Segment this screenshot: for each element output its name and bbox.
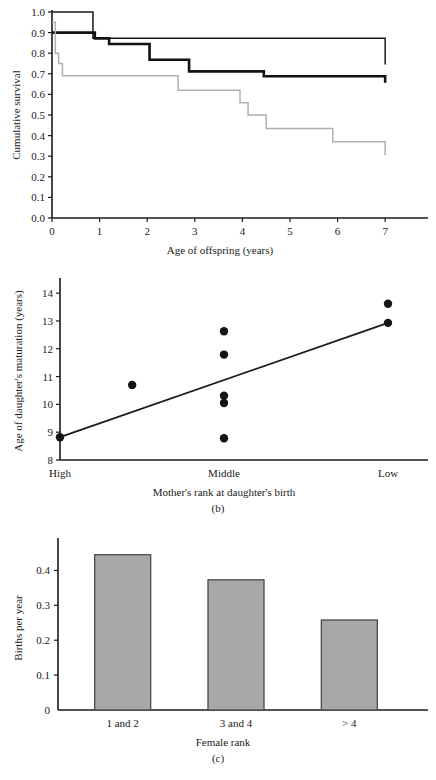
bar-0 bbox=[95, 555, 151, 710]
y-tick-label: 10 bbox=[42, 398, 54, 410]
y-tick-label: 0.2 bbox=[31, 171, 45, 183]
y-tick-label: 0.6 bbox=[31, 88, 45, 100]
y-tick-label: 0.1 bbox=[36, 669, 50, 681]
x-axis-title: Age of offspring (years) bbox=[167, 244, 274, 257]
y-tick-label: 9 bbox=[48, 426, 54, 438]
scatter-point bbox=[220, 399, 228, 407]
y-tick-label: 0.9 bbox=[31, 27, 45, 39]
x-tick-label: 7 bbox=[382, 225, 388, 237]
x-tick-label: > 4 bbox=[342, 717, 357, 729]
x-tick-label: 5 bbox=[287, 225, 293, 237]
y-tick-label: 0.4 bbox=[36, 564, 50, 576]
x-axis-title: Female rank bbox=[196, 736, 251, 748]
scatter-point bbox=[220, 434, 228, 442]
y-tick-label: 1.0 bbox=[31, 6, 45, 18]
births-chart-svg: 00.10.20.30.41 and 23 and 4> 4Female ran… bbox=[0, 520, 436, 780]
y-tick-label: 0.2 bbox=[36, 634, 50, 646]
y-tick-label: 11 bbox=[42, 371, 53, 383]
survival-curve-low-rank bbox=[52, 22, 385, 155]
y-tick-label: 14 bbox=[42, 287, 54, 299]
scatter-point bbox=[128, 381, 136, 389]
y-tick-label: 8 bbox=[48, 454, 54, 466]
panel-caption: (c) bbox=[212, 752, 225, 765]
x-tick-label: 6 bbox=[335, 225, 341, 237]
scatter-point bbox=[220, 327, 228, 335]
y-tick-label: 0.3 bbox=[36, 599, 50, 611]
x-tick-label: 1 bbox=[97, 225, 103, 237]
x-tick-label: 0 bbox=[49, 225, 55, 237]
regression-line bbox=[60, 323, 388, 437]
panel-births-bar: 00.10.20.30.41 and 23 and 4> 4Female ran… bbox=[0, 520, 436, 780]
bar-1 bbox=[208, 580, 264, 710]
panel-survival-curves: 0.00.10.20.30.40.50.60.70.80.91.00123456… bbox=[0, 0, 436, 260]
y-axis-title: Births per year bbox=[12, 595, 24, 661]
figure-container: 0.00.10.20.30.40.50.60.70.80.91.00123456… bbox=[0, 0, 436, 780]
scatter-point bbox=[384, 319, 392, 327]
y-tick-label: 0.5 bbox=[31, 109, 45, 121]
x-axis-title: Mother's rank at daughter's birth bbox=[153, 486, 296, 498]
y-tick-label: 0.8 bbox=[31, 47, 45, 59]
y-axis-title: Cumulative survival bbox=[10, 70, 22, 160]
x-tick-label: Middle bbox=[208, 467, 240, 479]
survival-chart-svg: 0.00.10.20.30.40.50.60.70.80.91.00123456… bbox=[0, 0, 436, 260]
y-axis-title: Age of daughter's maturation (years) bbox=[12, 290, 25, 452]
y-tick-label: 0.7 bbox=[31, 68, 45, 80]
scatter-point bbox=[384, 299, 392, 307]
maturation-chart-svg: 891011121314HighMiddleLowMother's rank a… bbox=[0, 260, 436, 520]
x-tick-label: 4 bbox=[240, 225, 246, 237]
x-tick-label: 3 bbox=[192, 225, 198, 237]
x-tick-label: High bbox=[49, 467, 72, 479]
y-tick-label: 0 bbox=[45, 704, 51, 716]
y-tick-label: 13 bbox=[42, 315, 54, 327]
panel-maturation-scatter: 891011121314HighMiddleLowMother's rank a… bbox=[0, 260, 436, 520]
y-tick-label: 0.1 bbox=[31, 191, 45, 203]
y-tick-label: 0.4 bbox=[31, 130, 45, 142]
scatter-point bbox=[56, 433, 64, 441]
y-tick-label: 12 bbox=[42, 343, 53, 355]
y-tick-label: 0.0 bbox=[31, 212, 45, 224]
scatter-point bbox=[220, 350, 228, 358]
bar-2 bbox=[321, 620, 377, 710]
panel-caption: (b) bbox=[212, 502, 225, 515]
x-tick-label: 1 and 2 bbox=[106, 717, 138, 729]
scatter-point bbox=[220, 392, 228, 400]
x-tick-label: Low bbox=[378, 467, 398, 479]
y-tick-label: 0.3 bbox=[31, 150, 45, 162]
x-tick-label: 3 and 4 bbox=[220, 717, 253, 729]
x-tick-label: 2 bbox=[144, 225, 150, 237]
